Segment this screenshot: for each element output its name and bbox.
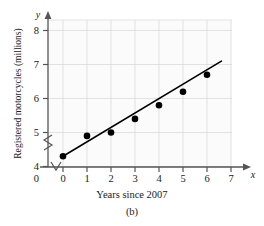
- x-axis-title: Years since 2007: [0, 189, 264, 200]
- y-axis-letter: y: [35, 9, 41, 20]
- x-tick-label: 2: [108, 173, 113, 184]
- y-axis-ticks: [43, 31, 48, 167]
- data-point: [132, 116, 139, 123]
- x-tick-label: 4: [156, 173, 162, 184]
- data-point: [204, 71, 211, 78]
- x-tick-labels: 0 1 2 3 4 5 6 7: [60, 173, 233, 184]
- y-tick-label: 5: [34, 127, 39, 138]
- origin-label: 0: [34, 173, 39, 184]
- x-axis-letter: x: [250, 169, 256, 180]
- data-point: [156, 102, 163, 109]
- y-tick-labels: 8 7 6 5 4: [34, 25, 40, 172]
- data-point: [180, 88, 187, 95]
- figure-panel: 8 7 6 5 4 0 0 1 2 3 4 5 6 7 y x: [0, 0, 264, 226]
- data-point: [108, 129, 115, 136]
- y-tick-label: 4: [34, 161, 40, 172]
- x-tick-label: 6: [204, 173, 209, 184]
- x-tick-label: 7: [228, 173, 233, 184]
- data-point: [60, 153, 67, 160]
- data-point: [84, 133, 91, 140]
- x-tick-label: 5: [180, 173, 185, 184]
- x-tick-label: 1: [84, 173, 89, 184]
- y-tick-label: 8: [34, 25, 39, 36]
- y-tick-label: 6: [34, 93, 39, 104]
- y-axis-title: Registered motorcycles (millions): [12, 9, 23, 179]
- figure-caption: (b): [0, 206, 264, 217]
- x-tick-label: 3: [132, 173, 137, 184]
- x-tick-label: 0: [60, 173, 65, 184]
- y-axis-arrowhead: [45, 11, 52, 19]
- x-axis-ticks: [63, 167, 231, 172]
- y-tick-label: 7: [34, 59, 39, 70]
- plot-background: [48, 20, 232, 167]
